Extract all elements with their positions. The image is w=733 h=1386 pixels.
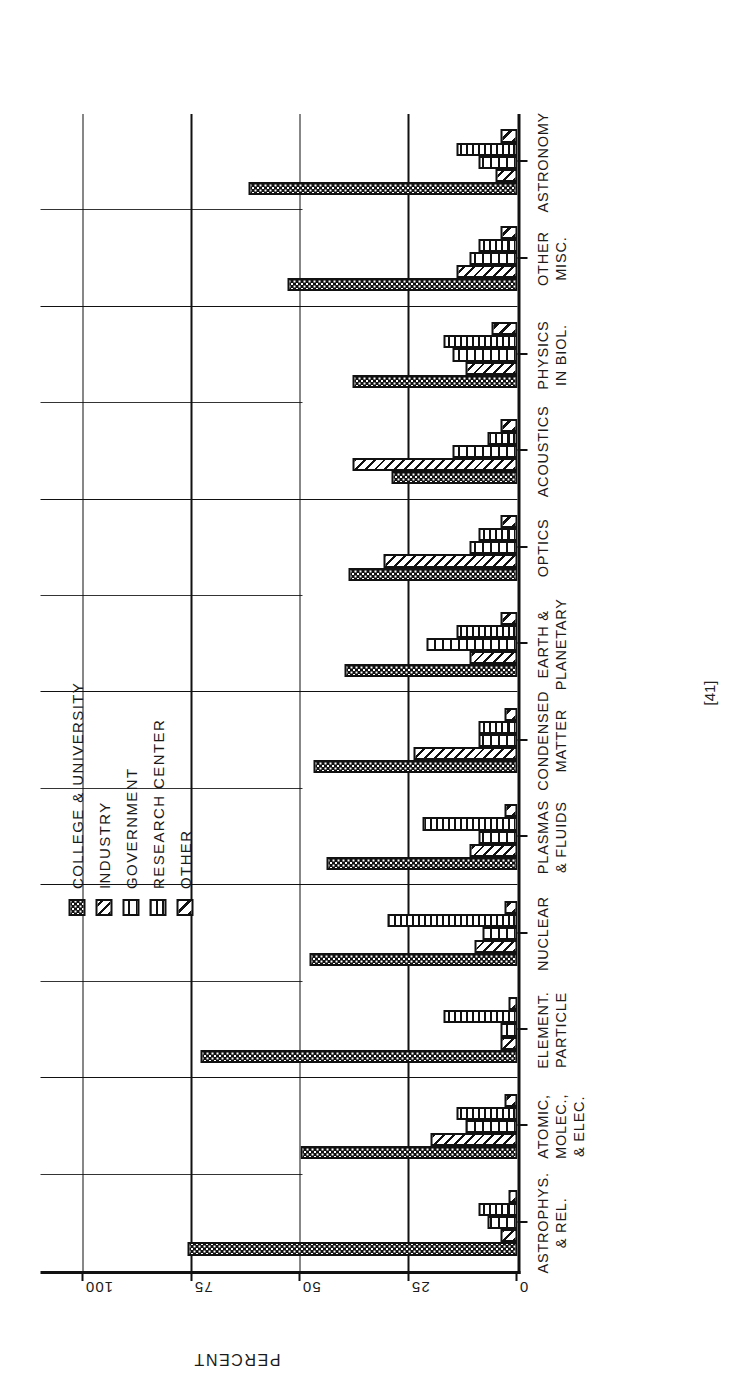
- swatch-vertical-wide-icon: [149, 899, 166, 916]
- bar-group: [40, 1190, 517, 1256]
- bar-vertical-wide: [456, 625, 517, 638]
- category-tick: [517, 1221, 527, 1223]
- page-number: [41]: [700, 0, 717, 1386]
- category-tick: [517, 449, 527, 451]
- category-tick: [517, 1124, 527, 1126]
- bar-chart-figure: 0255075100ASTROPHYS. & REL.ATOMIC, MOLEC…: [0, 0, 733, 1386]
- bar-diagonal: [413, 747, 517, 760]
- bar-vertical-wide: [456, 143, 517, 156]
- category-label: ASTRONOMY: [533, 85, 551, 239]
- swatch-diagonal-icon: [95, 899, 112, 916]
- bar-diagonal-wide: [508, 1190, 517, 1203]
- bar-dots: [300, 1146, 517, 1159]
- category-gridline: [40, 209, 302, 210]
- y-axis-tick-label: 25: [410, 1279, 429, 1296]
- bar-vertical: [500, 1023, 517, 1036]
- bar-vertical: [478, 734, 517, 747]
- bar-vertical-wide: [478, 1203, 517, 1216]
- bar-group: [40, 515, 517, 581]
- bar-diagonal-wide: [504, 804, 517, 817]
- bar-diagonal: [474, 940, 517, 953]
- bar-diagonal-wide: [500, 129, 517, 142]
- bar-diagonal-wide: [500, 515, 517, 528]
- bar-group: [40, 612, 517, 678]
- bar-vertical: [465, 1120, 517, 1133]
- category-gridline: [40, 1174, 302, 1175]
- bar-diagonal: [469, 844, 517, 857]
- bar-vertical-wide: [478, 528, 517, 541]
- bar-diagonal-wide: [508, 997, 517, 1010]
- category-gridline: [40, 1077, 517, 1078]
- bar-dots: [326, 857, 517, 870]
- category-tick: [517, 160, 527, 162]
- category-tick: [517, 546, 527, 548]
- bar-vertical-wide: [478, 239, 517, 252]
- bar-dots: [248, 182, 517, 195]
- legend-label: RESEARCH CENTER: [149, 719, 166, 889]
- category-tick: [517, 642, 527, 644]
- bar-vertical: [482, 927, 517, 940]
- bar-diagonal: [383, 554, 517, 567]
- swatch-diagonal-wide-icon: [176, 899, 193, 916]
- category-tick: [517, 353, 527, 355]
- bar-vertical-wide: [487, 432, 517, 445]
- y-axis-tick-label: 0: [519, 1279, 528, 1296]
- bar-vertical: [469, 252, 517, 265]
- bar-group: [40, 129, 517, 195]
- bar-diagonal-wide: [504, 708, 517, 721]
- bar-diagonal: [500, 1037, 517, 1050]
- y-axis-tick: [298, 1271, 300, 1281]
- bar-diagonal: [500, 1229, 517, 1242]
- bar-dots: [313, 760, 517, 773]
- legend-item: GOVERNMENT: [122, 682, 139, 916]
- bar-dots: [352, 375, 517, 388]
- y-axis-tick-label: 100: [85, 1279, 113, 1296]
- figure-page: 0255075100ASTROPHYS. & REL.ATOMIC, MOLEC…: [0, 0, 733, 1386]
- bar-group: [40, 419, 517, 485]
- category-tick: [517, 1028, 527, 1030]
- bar-group: [40, 997, 517, 1063]
- bar-diagonal: [456, 265, 517, 278]
- bar-dots: [391, 471, 517, 484]
- category-tick: [517, 257, 527, 259]
- bar-group: [40, 322, 517, 388]
- bar-vertical: [487, 1216, 517, 1229]
- y-axis-tick: [190, 1271, 192, 1281]
- bar-vertical: [452, 349, 517, 362]
- swatch-dots-icon: [68, 899, 85, 916]
- legend-label: GOVERNMENT: [122, 767, 139, 889]
- legend-label: INDUSTRY: [95, 801, 112, 889]
- bar-group: [40, 1094, 517, 1160]
- bar-group: [40, 226, 517, 292]
- bar-vertical-wide: [422, 817, 517, 830]
- y-axis-tick: [407, 1271, 409, 1281]
- bar-vertical: [478, 156, 517, 169]
- bar-vertical: [426, 638, 517, 651]
- category-gridline: [40, 595, 302, 596]
- legend-item: OTHER: [176, 682, 193, 916]
- y-axis-tick: [81, 1271, 83, 1281]
- bar-vertical: [469, 541, 517, 554]
- bar-dots: [200, 1050, 517, 1063]
- bar-vertical-wide: [443, 1010, 517, 1023]
- bar-diagonal-wide: [504, 901, 517, 914]
- category-gridline: [40, 981, 302, 982]
- legend-label: COLLEGE & UNIVERSITY: [68, 682, 85, 889]
- legend-item: COLLEGE & UNIVERSITY: [68, 682, 85, 916]
- bar-diagonal: [430, 1133, 517, 1146]
- bar-vertical-wide: [456, 1107, 517, 1120]
- bar-dots: [344, 664, 517, 677]
- bar-vertical: [452, 445, 517, 458]
- legend-item: INDUSTRY: [95, 682, 112, 916]
- y-axis-tick-label: 75: [193, 1279, 212, 1296]
- bar-dots: [287, 278, 517, 291]
- category-gridline: [40, 402, 302, 403]
- chart-legend: COLLEGE & UNIVERSITYINDUSTRYGOVERNMENTRE…: [68, 682, 203, 916]
- bar-diagonal-wide: [500, 612, 517, 625]
- category-gridline: [40, 306, 517, 307]
- y-axis-tick-label: 50: [302, 1279, 321, 1296]
- category-tick: [517, 739, 527, 741]
- bar-dots: [309, 953, 517, 966]
- bar-diagonal: [469, 651, 517, 664]
- bar-diagonal: [352, 458, 517, 471]
